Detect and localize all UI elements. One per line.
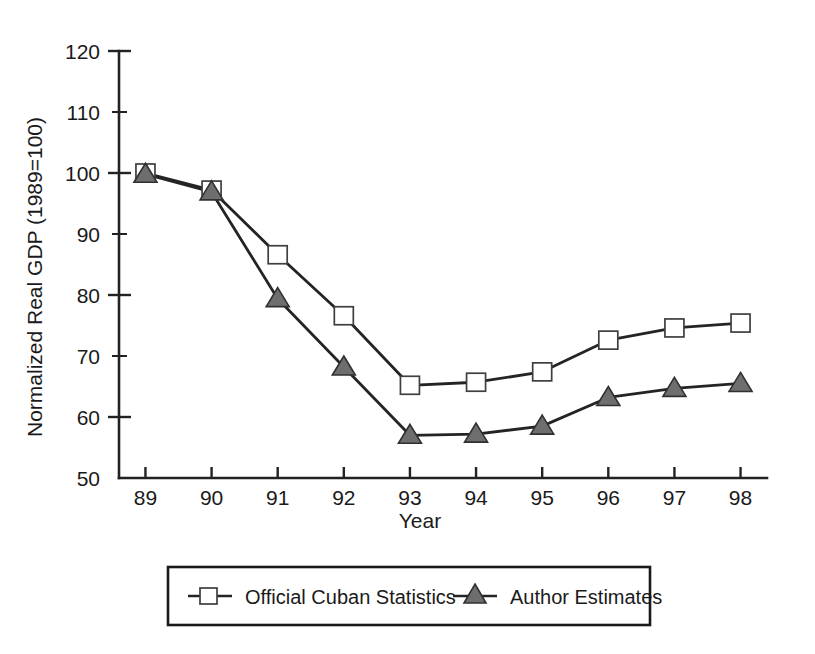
x-tick-label-95: 95 [531,486,554,509]
x-tick-label-90: 90 [200,486,223,509]
x-tick-label-91: 91 [266,486,289,509]
gdp-line-chart: Normalized Real GDP (1989=100) Year 120 … [0,0,815,654]
y-tick-label-110: 110 [67,101,100,124]
y-tick-label-60: 60 [77,406,100,429]
data-point-94 [467,373,486,391]
x-tick-label-89: 89 [134,486,157,509]
data-point-96 [599,331,618,349]
y-tick-label-100: 100 [65,162,100,185]
y-tick-label-90: 90 [77,223,100,246]
legend: Official Cuban Statistics Author Estimat… [168,567,662,625]
x-tick-label-98: 98 [729,486,752,509]
chart-figure: Normalized Real GDP (1989=100) Year 120 … [0,0,815,654]
y-tick-label-70: 70 [77,345,100,368]
x-tick-label-96: 96 [597,486,620,509]
y-tick-label-80: 80 [77,284,100,307]
y-tick-label-50: 50 [77,467,100,490]
data-point-97 [665,319,684,337]
data-point-95 [533,363,552,381]
x-tick-label-97: 97 [663,486,686,509]
data-point-93 [400,376,419,394]
x-tick-label-92: 92 [332,486,355,509]
data-point-91 [268,246,287,264]
legend-label-author: Author Estimates [510,586,662,608]
legend-label-official: Official Cuban Statistics [245,586,456,608]
x-tick-label-93: 93 [398,486,421,509]
open-square-icon [200,588,217,604]
x-axis-title: Year [399,509,441,532]
data-point-92 [334,307,353,325]
y-tick-label-120: 120 [65,40,100,63]
y-axis-title: Normalized Real GDP (1989=100) [23,117,46,437]
x-tick-label-94: 94 [464,486,488,509]
data-point-98 [731,314,750,332]
